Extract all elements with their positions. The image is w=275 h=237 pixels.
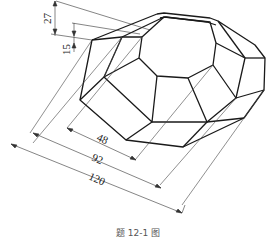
- polyhedron-outline: [80, 13, 265, 147]
- dim-label-27: 27: [41, 13, 53, 25]
- dim-label-15: 15: [60, 44, 72, 56]
- figure-caption: 题 12-1 图: [116, 228, 160, 237]
- drawing-canvas: 27 15 48 92 120 题 12-1 图: [0, 0, 275, 237]
- dim-label-92: 92: [90, 151, 105, 166]
- construction-lines: [30, 37, 264, 205]
- dim-label-48: 48: [95, 131, 110, 147]
- dim-label-120: 120: [87, 170, 107, 188]
